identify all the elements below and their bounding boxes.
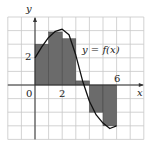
riemann-rectangle — [49, 32, 63, 85]
y-axis-arrow-icon — [33, 17, 37, 22]
riemann-rectangle — [35, 44, 49, 85]
origin-label: 0 — [26, 88, 32, 99]
riemann-rectangle — [62, 39, 76, 85]
y-axis-label: y — [25, 3, 32, 14]
x-tick-label-6: 6 — [114, 73, 120, 84]
x-tick-label-2: 2 — [59, 88, 65, 99]
curve-label: y = f(x) — [81, 44, 120, 55]
riemann-rectangle — [89, 85, 103, 112]
riemann-rectangle — [103, 85, 117, 126]
riemann-sum-diagram: y x 0 2 6 2 y = f(x) — [0, 0, 145, 154]
x-axis-label: x — [137, 87, 143, 98]
y-tick-label-2: 2 — [25, 51, 31, 62]
